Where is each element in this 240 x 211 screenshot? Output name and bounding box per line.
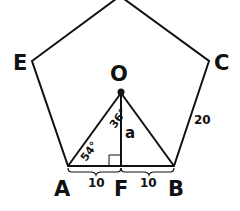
- center-point-O: [118, 89, 125, 96]
- brace-AF: [68, 168, 121, 175]
- label-F: F: [114, 177, 128, 201]
- label-A: A: [54, 177, 71, 201]
- label-C: C: [214, 51, 229, 75]
- label-E: E: [13, 51, 27, 75]
- label-half-left: 10: [88, 176, 105, 190]
- label-apothem: a: [125, 124, 135, 142]
- label-side-length: 20: [194, 113, 211, 127]
- label-B: B: [168, 177, 184, 201]
- right-angle-marker: [109, 155, 121, 166]
- brace-FB: [121, 168, 174, 175]
- label-O: O: [110, 62, 128, 86]
- pentagon-diagram: O E C A F B 20 10 10 a 54° 36°: [0, 0, 240, 211]
- label-angle-A: 54°: [78, 139, 101, 163]
- label-half-right: 10: [140, 176, 157, 190]
